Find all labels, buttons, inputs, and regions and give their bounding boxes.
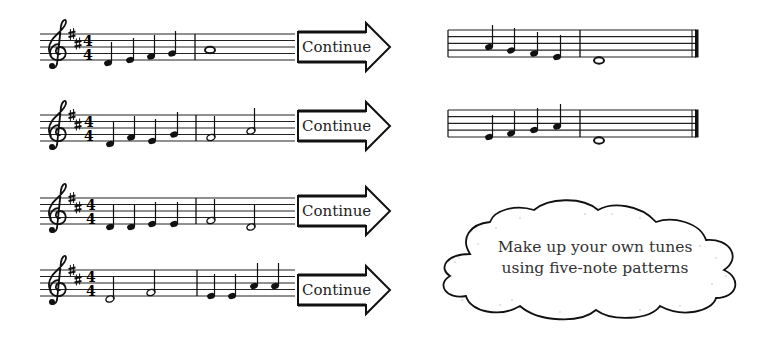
- note: [167, 31, 177, 58]
- note: [147, 202, 157, 228]
- note: [227, 274, 237, 300]
- cloud-caption: Make up your own tunes using five-note p…: [455, 237, 735, 279]
- note: [506, 111, 516, 138]
- exercise-1: 4 4 Continue: [40, 20, 390, 71]
- sharp-c-icon: [75, 274, 82, 286]
- note: [552, 35, 562, 61]
- exercise-4: 4 4 Continue: [40, 256, 390, 314]
- note: [206, 199, 216, 225]
- continue-label: Continue: [302, 281, 371, 299]
- note: [206, 116, 216, 142]
- note: [146, 35, 156, 61]
- note: [484, 115, 494, 141]
- note: [169, 112, 179, 139]
- treble-clef-icon: [49, 184, 66, 233]
- final-barline-thick: [695, 110, 699, 138]
- time-sig-bottom: 4: [86, 283, 96, 299]
- sharp-c-icon: [75, 119, 82, 131]
- continue-arrow: Continue: [298, 266, 390, 314]
- note: [105, 277, 115, 303]
- continuation-2: [448, 104, 699, 144]
- note: [206, 274, 216, 300]
- note: [169, 202, 179, 228]
- staff-lines: [40, 34, 295, 60]
- note: [147, 119, 157, 145]
- continue-label: Continue: [302, 38, 371, 56]
- cloud-line-1: Make up your own tunes: [455, 237, 735, 258]
- note: [594, 137, 604, 143]
- treble-clef-icon: [49, 101, 66, 150]
- note: [529, 108, 539, 134]
- exercise-3: 4 4 Continue: [40, 184, 390, 235]
- continuation-1: [448, 25, 699, 64]
- time-sig-bottom: 4: [83, 47, 93, 63]
- continue-arrow: Continue: [298, 23, 390, 71]
- continue-arrow: Continue: [298, 187, 390, 235]
- note: [246, 205, 256, 231]
- treble-clef-icon: [49, 20, 66, 69]
- exercise-2: 4 4 Continue: [40, 101, 390, 150]
- time-sig-bottom: 4: [86, 211, 96, 227]
- note: [126, 116, 136, 142]
- continue-label: Continue: [302, 202, 371, 220]
- note: [205, 47, 215, 53]
- time-sig-bottom: 4: [84, 128, 94, 144]
- sharp-c-icon: [75, 38, 82, 50]
- note: [484, 25, 494, 51]
- note: [506, 28, 516, 55]
- note: [552, 104, 562, 131]
- continue-label: Continue: [302, 117, 371, 135]
- continue-arrow: Continue: [298, 102, 390, 150]
- final-barline-thick: [695, 30, 699, 58]
- note: [594, 57, 604, 63]
- note: [529, 32, 539, 58]
- note: [125, 38, 135, 64]
- cloud-line-2: using five-note patterns: [455, 258, 735, 279]
- treble-clef-icon: [49, 256, 66, 305]
- music-score: 4 4 Continue: [0, 0, 761, 353]
- note: [103, 42, 113, 67]
- sharp-c-icon: [75, 202, 82, 214]
